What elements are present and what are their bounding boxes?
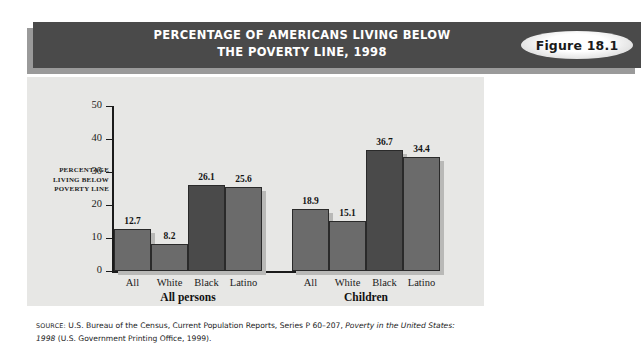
y-tick-label-40: 40 <box>76 132 102 143</box>
bar-children-black <box>366 150 403 271</box>
bar-value-label: 25.6 <box>219 174 268 184</box>
y-tick-label-30: 30 <box>76 165 102 176</box>
bar-children-latino <box>403 157 440 271</box>
group-label-children: Children <box>272 291 460 303</box>
source-prefix: SOURCE: <box>36 322 66 330</box>
source-text-1: U.S. Bureau of the Census, Current Popul… <box>66 321 345 330</box>
bar-value-label: 8.2 <box>145 231 194 241</box>
x-category-label-latino: Latino <box>219 277 268 288</box>
bar-value-label: 34.4 <box>397 144 446 154</box>
figure-number-badge: Figure 18.1 <box>521 31 633 59</box>
bar-value-label: 18.9 <box>286 196 335 206</box>
y-tick-mark-0 <box>106 271 113 272</box>
page-title-line2: THE POVERTY LINE, 1998 <box>87 44 517 61</box>
y-axis-title-line3: POVERTY LINE <box>35 184 109 194</box>
y-tick-mark-30 <box>106 172 113 173</box>
x-category-label-latino: Latino <box>397 277 446 288</box>
y-tick-mark-20 <box>106 205 113 206</box>
plot-area: PERCENTAGE LIVING BELOW POVERTY LINE 010… <box>27 77 484 306</box>
y-tick-label-20: 20 <box>76 198 102 209</box>
header-banner: PERCENTAGE OF AMERICANS LIVING BELOW THE… <box>27 22 641 74</box>
figure-number-label: Figure 18.1 <box>536 38 619 53</box>
source-note: SOURCE: U.S. Bureau of the Census, Curre… <box>36 320 466 344</box>
source-text-2: (U.S. Government Printing Office, 1999). <box>55 334 211 343</box>
y-tick-mark-50 <box>106 106 113 107</box>
y-tick-label-10: 10 <box>76 231 102 242</box>
y-tick-mark-40 <box>106 139 113 140</box>
y-tick-label-0: 0 <box>76 264 102 275</box>
y-axis-title-line2: LIVING BELOW <box>35 175 109 185</box>
bar-all-persons-black <box>188 185 225 271</box>
y-tick-mark-10 <box>106 238 113 239</box>
page-title-line1: PERCENTAGE OF AMERICANS LIVING BELOW <box>87 27 517 44</box>
y-tick-label-50: 50 <box>76 99 102 110</box>
bar-value-label: 12.7 <box>108 216 157 226</box>
bar-all-persons-white <box>151 244 188 271</box>
page-title: PERCENTAGE OF AMERICANS LIVING BELOW THE… <box>87 27 517 61</box>
chart-panel: PERCENTAGE LIVING BELOW POVERTY LINE 010… <box>27 77 484 306</box>
bar-value-label: 15.1 <box>323 208 372 218</box>
group-label-all-persons: All persons <box>94 291 282 303</box>
bar-children-white <box>329 221 366 271</box>
bar-all-persons-latino <box>225 187 262 271</box>
